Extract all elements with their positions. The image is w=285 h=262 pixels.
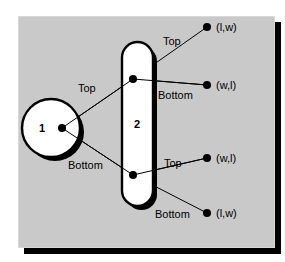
node-1-circle[interactable] [22,99,80,157]
edge-label-2bottom-terminal-d: Bottom [155,209,190,220]
edge-label-1-to-2-bottom: Bottom [68,160,103,171]
terminal-label-lw-bottom: (l,w) [216,208,237,219]
terminal-lw-bottom-dot [203,209,211,217]
terminal-label-lw-top: (l,w) [216,22,237,33]
terminal-wl-lower-dot [203,154,211,162]
terminal-label-wl-upper: (w,l) [216,80,236,91]
node-2-top-port-dot [129,75,137,83]
terminal-label-wl-lower: (w,l) [216,153,236,164]
node-2-bottom-port-dot [129,171,137,179]
node-1-port-dot [58,124,66,132]
edge-label-1-to-2-top: Top [78,83,96,94]
terminal-wl-upper-dot [203,81,211,89]
diagram-canvas: 1 2 Top Bottom Top Bottom Top Bottom (l,… [0,0,285,262]
terminal-lw-top-dot [203,23,211,31]
node-1-label: 1 [39,123,45,134]
node-2-label: 2 [134,119,140,130]
edge-label-2top-terminal-b: Bottom [158,90,193,101]
edge-label-2bottom-terminal-c: Top [164,158,182,169]
edge-label-2top-terminal-a: Top [163,36,181,47]
